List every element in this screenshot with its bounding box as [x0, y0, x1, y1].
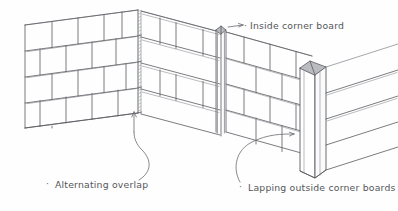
left-wall [25, 10, 138, 128]
alternating-overlap-label: Alternating overlap [55, 179, 148, 190]
inside-corner-bullet: · [244, 20, 247, 31]
outside-corner-left [138, 10, 142, 114]
far-right-wall [326, 44, 398, 170]
right-wall [226, 32, 312, 156]
drawing-canvas: · Inside corner board · Alternating over… [0, 0, 398, 211]
alternating-overlap-bullet: · [46, 178, 49, 189]
leader-lapping-outside [236, 132, 294, 182]
leader-inside-corner [228, 23, 243, 27]
inside-corner-board [216, 26, 226, 136]
inside-corner-board-label: Inside corner board [250, 20, 344, 31]
middle-wall [141, 11, 220, 135]
lapping-outside-bullet: · [239, 181, 242, 192]
outside-corner-boards [300, 61, 326, 178]
lapping-outside-corner-boards-label: Lapping outside corner boards [248, 182, 396, 193]
leader-alternating-overlap [132, 112, 149, 180]
shingle-corner-detail-figure: · Inside corner board · Alternating over… [0, 0, 398, 211]
